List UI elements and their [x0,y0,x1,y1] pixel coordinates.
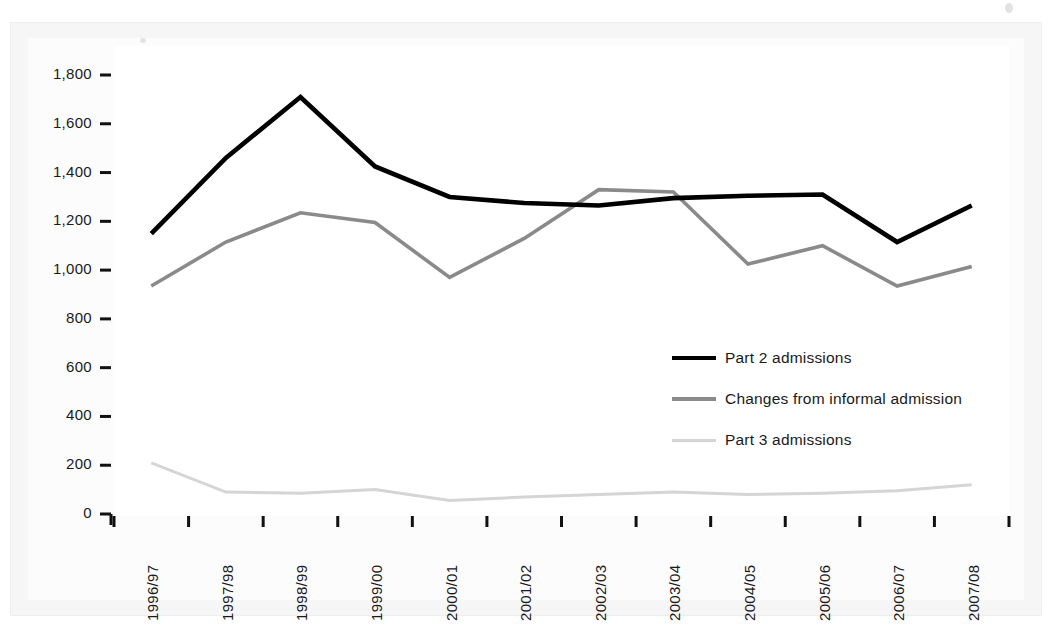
x-axis-tick-label: 2000/01 [443,565,460,621]
x-axis-tick-label: 2002/03 [592,565,609,621]
legend-item: Part 3 admissions [672,431,852,449]
x-axis-ticks [114,516,1009,527]
x-axis-tick-label: 2004/05 [741,565,758,621]
y-axis-tick-label: 800 [14,309,92,326]
series-line [151,97,971,242]
y-axis-tick-label: 1,200 [14,211,92,228]
y-axis-tick-label: 1,000 [14,260,92,277]
x-axis-tick-label: 1996/97 [144,565,161,621]
y-axis-ticks [100,75,111,525]
y-axis-tick-label: 1,800 [14,65,92,82]
x-axis-tick-label: 2005/06 [816,565,833,621]
x-axis-tick-label: 2007/08 [965,565,982,621]
legend-label: Changes from informal admission [725,390,962,408]
chart-figure: 02004006008001,0001,2001,4001,6001,800 1… [0,0,1062,643]
legend-label: Part 2 admissions [725,349,852,367]
chart-canvas [0,0,1062,643]
legend-item: Changes from informal admission [672,390,962,408]
legend-item: Part 2 admissions [672,349,852,367]
legend-color-swatch [672,397,716,401]
x-axis-tick-label: 1997/98 [219,565,236,621]
legend-label: Part 3 admissions [725,431,852,449]
series-line [151,463,971,501]
x-axis-tick-label: 1999/00 [368,565,385,621]
legend-color-swatch [672,439,716,442]
y-axis-tick-label: 600 [14,358,92,375]
y-axis-tick-label: 1,400 [14,163,92,180]
legend-color-swatch [672,356,716,361]
x-axis-tick-label: 1998/99 [293,565,310,621]
y-axis-tick-label: 0 [14,504,92,521]
x-axis-tick-label: 2003/04 [666,565,683,621]
y-axis-tick-label: 1,600 [14,114,92,131]
x-axis-tick-label: 2006/07 [890,565,907,621]
y-axis-tick-label: 400 [14,406,92,423]
x-axis-tick-label: 2001/02 [517,565,534,621]
y-axis-tick-label: 200 [14,455,92,472]
